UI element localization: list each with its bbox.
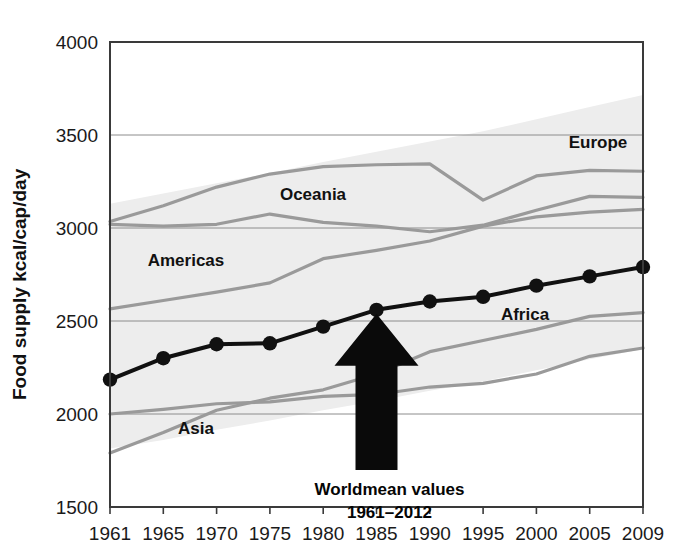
y-tick-label: 2500 (56, 311, 98, 332)
y-axis-title: Food supply kcal/cap/day (9, 168, 30, 400)
x-tick-label: 2009 (622, 523, 664, 544)
y-tick-label: 3000 (56, 218, 98, 239)
x-tick-label: 1961 (89, 523, 131, 544)
x-tick-label: 1980 (302, 523, 344, 544)
x-tick-label: 1975 (249, 523, 291, 544)
y-tick-label: 4000 (56, 32, 98, 53)
x-tick-labels: 1961196519701975198019851990199520002005… (89, 523, 664, 544)
y-tick-label: 2000 (56, 404, 98, 425)
y-tick-labels: 150020002500300035004000 (56, 32, 98, 518)
series-label-americas: Americas (148, 251, 225, 270)
x-tick-label: 2005 (569, 523, 611, 544)
chart-figure: 150020002500300035004000 196119651970197… (0, 0, 673, 559)
worldmean-marker (263, 336, 277, 350)
x-tick-label: 1970 (195, 523, 237, 544)
worldmean-marker (316, 319, 330, 333)
x-tick-label: 1965 (142, 523, 184, 544)
worldmean-marker (423, 294, 437, 308)
worldmean-marker (209, 337, 223, 351)
food-supply-line-chart: 150020002500300035004000 196119651970197… (0, 0, 673, 559)
annotation-line-2: 1961–2012 (347, 503, 432, 522)
worldmean-marker (156, 351, 170, 365)
series-label-oceania: Oceania (280, 185, 347, 204)
worldmean-marker (476, 290, 490, 304)
worldmean-marker (583, 269, 597, 283)
y-tick-label: 3500 (56, 125, 98, 146)
x-tick-label: 2000 (515, 523, 557, 544)
series-label-africa: Africa (501, 305, 550, 324)
y-tick-label: 1500 (56, 497, 98, 518)
series-label-europe: Europe (569, 133, 628, 152)
x-tick-label: 1995 (462, 523, 504, 544)
x-tick-label: 1990 (409, 523, 451, 544)
worldmean-marker (529, 278, 543, 292)
x-tick-label: 1985 (355, 523, 397, 544)
annotation-line-1: Worldmean values (315, 480, 465, 499)
series-label-asia: Asia (178, 419, 214, 438)
